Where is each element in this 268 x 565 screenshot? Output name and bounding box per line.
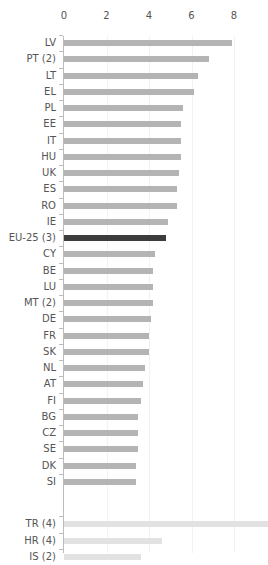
axis-tick-mark xyxy=(59,393,63,394)
bar xyxy=(64,154,181,160)
category-label: IS (2) xyxy=(29,550,56,564)
bar xyxy=(64,398,141,404)
axis-tick-mark xyxy=(59,295,63,296)
bar-row: HR (4) xyxy=(0,534,268,548)
bar xyxy=(64,268,153,274)
axis-tick-mark xyxy=(59,214,63,215)
bar xyxy=(64,219,168,225)
bar-row: BE xyxy=(0,264,268,278)
bar-row: EL xyxy=(0,85,268,99)
bar xyxy=(64,203,177,209)
bar-row: LU xyxy=(0,280,268,294)
category-label: EL xyxy=(44,85,56,99)
bar xyxy=(64,121,181,127)
axis-tick-mark xyxy=(59,133,63,134)
axis-tick-mark xyxy=(59,263,63,264)
axis-tick-mark xyxy=(59,409,63,410)
bar-row: CZ xyxy=(0,426,268,440)
bar xyxy=(64,105,183,111)
axis-tick-mark xyxy=(59,149,63,150)
axis-tick-mark xyxy=(59,35,63,36)
bar xyxy=(64,446,138,452)
category-label: AT xyxy=(44,377,56,391)
bar-row: CY xyxy=(0,247,268,261)
axis-tick-mark xyxy=(59,246,63,247)
category-label: MT (2) xyxy=(24,296,56,310)
axis-tick-mark xyxy=(59,458,63,459)
axis-tick-mark xyxy=(59,51,63,52)
category-label: DK xyxy=(42,459,56,473)
axis-tick-mark xyxy=(59,376,63,377)
bar xyxy=(64,235,166,241)
bar-row: DE xyxy=(0,312,268,326)
axis-tick-mark xyxy=(59,311,63,312)
bar xyxy=(64,316,151,322)
category-label: LU xyxy=(44,280,56,294)
category-label: NL xyxy=(43,361,56,375)
bar-row: UK xyxy=(0,166,268,180)
bar xyxy=(64,365,145,371)
bar-row: RO xyxy=(0,199,268,213)
bar xyxy=(64,479,136,485)
category-label: BG xyxy=(42,410,56,424)
bar-row: AT xyxy=(0,377,268,391)
bar xyxy=(64,463,136,469)
bar xyxy=(64,349,149,355)
bar-row: LV xyxy=(0,36,268,50)
category-label: SK xyxy=(43,345,56,359)
axis-tick-mark xyxy=(59,328,63,329)
bar-row: FR xyxy=(0,329,268,343)
bar-row: HU xyxy=(0,150,268,164)
axis-tick-mark xyxy=(59,516,63,517)
category-label: SI xyxy=(47,475,56,489)
bar-row: DK xyxy=(0,459,268,473)
category-label: CZ xyxy=(42,426,56,440)
bar xyxy=(64,89,194,95)
bar xyxy=(64,186,177,192)
x-tick-label: 6 xyxy=(188,10,194,21)
axis-tick-mark xyxy=(59,441,63,442)
category-label: IT xyxy=(47,134,56,148)
axis-tick-mark xyxy=(59,425,63,426)
axis-tick-mark xyxy=(59,198,63,199)
bar-row: IT xyxy=(0,134,268,148)
axis-tick-mark xyxy=(59,100,63,101)
bar xyxy=(64,170,179,176)
bar xyxy=(64,554,141,560)
bar-row: TR (4) xyxy=(0,517,268,531)
bar-row: PL xyxy=(0,101,268,115)
category-label: CY xyxy=(43,247,56,261)
category-label: PT (2) xyxy=(27,52,56,66)
category-label: FR xyxy=(43,329,56,343)
category-label: TR (4) xyxy=(26,517,56,531)
bar xyxy=(64,284,153,290)
axis-tick-mark xyxy=(59,549,63,550)
bar-row: LT xyxy=(0,69,268,83)
bar xyxy=(64,300,153,306)
axis-tick-mark xyxy=(59,279,63,280)
bar xyxy=(64,73,198,79)
x-tick-label: 8 xyxy=(231,10,237,21)
category-label: LV xyxy=(45,36,56,50)
axis-tick-mark xyxy=(59,165,63,166)
category-label: HR (4) xyxy=(24,534,56,548)
bar-row: PT (2) xyxy=(0,52,268,66)
bar xyxy=(64,40,232,46)
category-label: EU-25 (3) xyxy=(9,231,56,245)
category-label: FI xyxy=(47,394,56,408)
category-label: EE xyxy=(43,117,56,131)
axis-tick-mark xyxy=(59,84,63,85)
bar-row: MT (2) xyxy=(0,296,268,310)
category-label: LT xyxy=(46,69,56,83)
bar xyxy=(64,538,162,544)
bar-row: ES xyxy=(0,182,268,196)
axis-tick-mark xyxy=(59,533,63,534)
bar xyxy=(64,56,209,62)
category-label: UK xyxy=(42,166,56,180)
category-label: BE xyxy=(43,264,56,278)
axis-tick-mark xyxy=(59,474,63,475)
axis-tick-mark xyxy=(59,68,63,69)
bar-row: SI xyxy=(0,475,268,489)
bar-row: NL xyxy=(0,361,268,375)
x-tick-label: 0 xyxy=(61,10,67,21)
